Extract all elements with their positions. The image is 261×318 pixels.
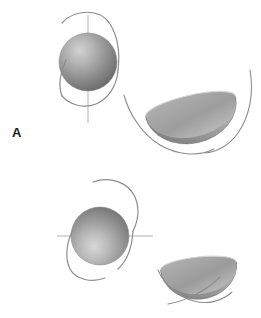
panel-label-a: A [12,126,21,139]
panel-a: A [0,0,261,159]
panel-b-graphic [0,159,261,318]
panel-a-graphic [0,0,261,159]
figure-root: A [0,0,261,318]
panel-b: B [0,159,261,318]
bowl-a-inner [145,91,235,138]
sphere-b [71,207,129,265]
sphere-a [59,33,117,91]
